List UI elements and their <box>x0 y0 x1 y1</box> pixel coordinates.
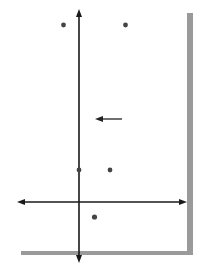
point-2-2 <box>108 168 113 173</box>
graph-paper <box>17 9 187 251</box>
y-axis-down-arrow-icon <box>76 255 82 263</box>
point-3-11 <box>123 23 128 28</box>
point-0-2 <box>77 168 82 173</box>
vertex-point <box>92 214 97 219</box>
point-neg1-11 <box>61 23 66 28</box>
parabola-graph <box>0 0 200 266</box>
